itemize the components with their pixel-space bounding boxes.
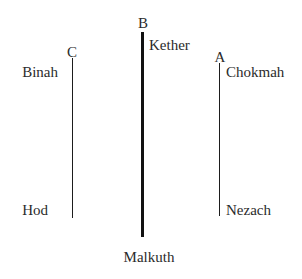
sephira-label-malkuth: Malkuth xyxy=(124,250,175,265)
sephira-label-chokmah: Chokmah xyxy=(226,65,284,80)
sephira-label-kether: Kether xyxy=(149,38,190,53)
sephira-label-hod: Hod xyxy=(22,203,48,218)
right-pillar-letter: A xyxy=(215,50,226,65)
tree-of-life-diagram: C Binah Hod B Kether Malkuth A Chokmah N… xyxy=(0,0,302,279)
right-pillar-line xyxy=(219,63,220,216)
left-pillar-letter: C xyxy=(67,45,77,60)
sephira-label-nezach: Nezach xyxy=(226,203,271,218)
left-pillar-line xyxy=(72,58,73,218)
middle-pillar-line xyxy=(141,32,144,237)
middle-pillar-letter: B xyxy=(138,16,148,31)
sephira-label-binah: Binah xyxy=(22,65,58,80)
